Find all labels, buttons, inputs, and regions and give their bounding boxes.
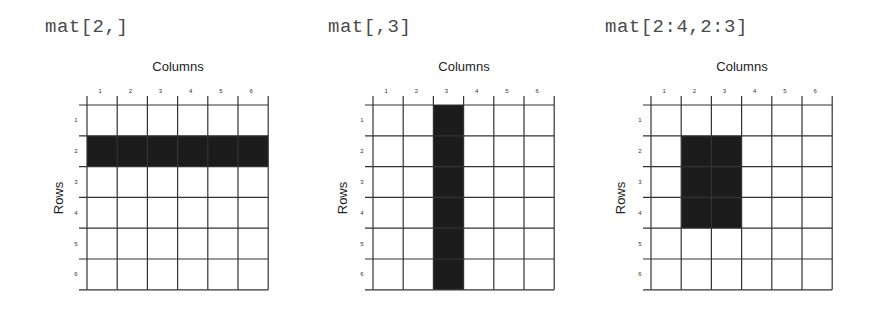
row-index-label: 3 [638, 179, 642, 185]
column-index-label: 4 [753, 88, 757, 94]
row-index-label: 4 [638, 210, 642, 216]
row-index-label: 6 [638, 271, 642, 277]
column-index-label: 2 [693, 88, 697, 94]
column-index-label: 1 [662, 88, 666, 94]
matrix-grid: 123456123456 [0, 0, 874, 314]
row-index-label: 5 [638, 241, 642, 247]
column-index-label: 3 [723, 88, 727, 94]
column-index-label: 5 [783, 88, 787, 94]
panel-submatrix-selection: mat[2:4,2:3] Columns Rows 123456123456 [0, 0, 874, 314]
row-index-label: 1 [638, 117, 642, 123]
column-index-label: 6 [813, 88, 817, 94]
row-index-label: 2 [638, 148, 642, 154]
